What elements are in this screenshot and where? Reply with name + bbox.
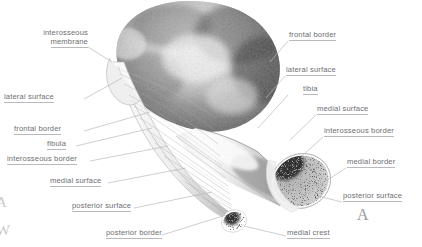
leader-medial-surface-right (290, 115, 316, 140)
label-interosseous-border-right: interosseous border (324, 126, 394, 137)
panel-marker-right: A (357, 206, 369, 224)
watermark-letter-w: W (0, 222, 10, 239)
label-frontal-border-right: frontal border (289, 30, 336, 41)
label-posterior-border: posterior border (106, 228, 162, 239)
label-medial-surface-left: medial surface (50, 176, 101, 187)
leader-interosseous-membrane (88, 47, 112, 62)
label-medial-surface-right: medial surface (317, 104, 368, 115)
tibia-proximal-head (100, 0, 300, 150)
label-medial-border: medial border (347, 157, 395, 168)
label-lateral-surface-right: lateral surface (286, 65, 336, 76)
leader-fibula (76, 128, 152, 146)
label-frontal-border-left: frontal border (14, 124, 61, 135)
leader-medial-crest (244, 226, 286, 236)
leader-posterior-border (162, 215, 226, 235)
anatomical-figure: interosseous membrane lateral surface fr… (0, 0, 422, 247)
label-line-1: interosseous (8, 28, 88, 37)
watermark-letter-a: A (0, 194, 7, 211)
label-line-2: membrane (51, 37, 89, 48)
label-posterior-surface-left: posterior surface (72, 201, 131, 212)
leader-interosseous-border-right (302, 137, 323, 156)
label-medial-crest: medial crest (287, 228, 330, 239)
label-lateral-surface-left: lateral surface (4, 92, 54, 103)
label-fibula: fibula (47, 139, 66, 150)
tibia-cross-section (263, 145, 339, 218)
label-interosseous-border-left: interosseous border (7, 154, 77, 165)
label-tibia: tibia (303, 84, 318, 95)
label-interosseous-membrane: interosseous membrane (8, 28, 88, 48)
label-posterior-surface-right: posterior surface (343, 191, 402, 202)
